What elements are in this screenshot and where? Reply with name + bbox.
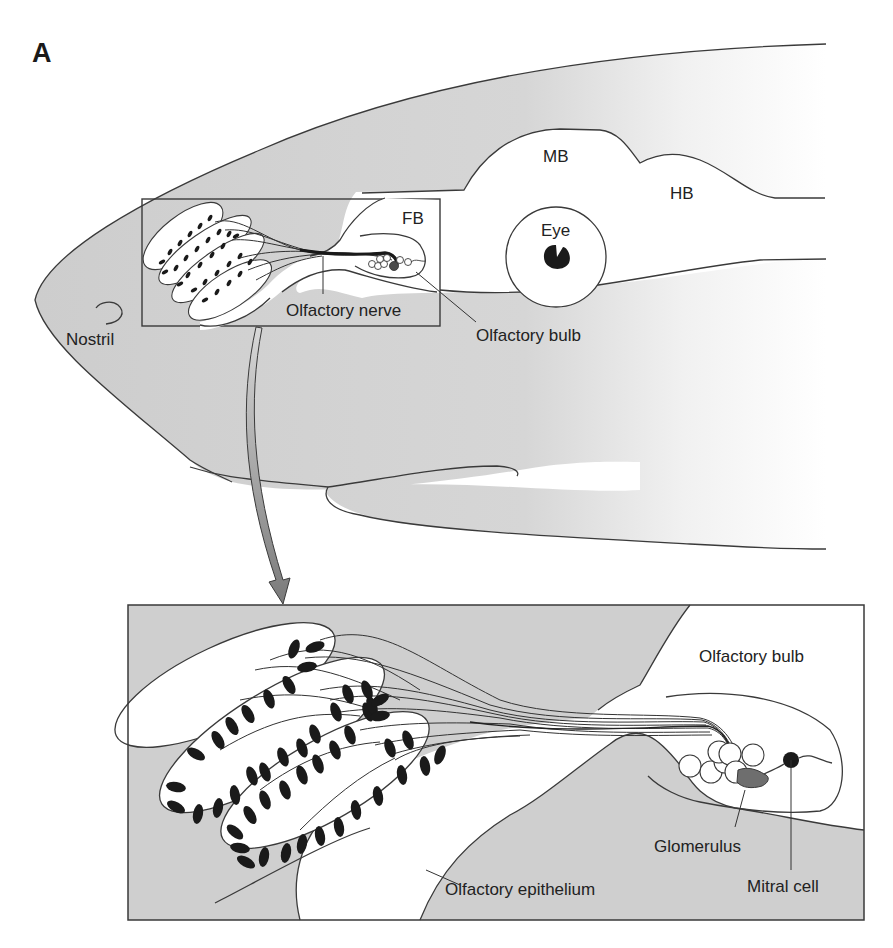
label-mitral-cell: Mitral cell: [747, 877, 819, 896]
olfactory-system-diagram: A: [0, 0, 893, 948]
fish-head: MB HB FB Eye Nostril Olfactory nerve Olf…: [35, 44, 826, 549]
label-eye: Eye: [541, 221, 570, 240]
inset-panel: Olfactory bulb Glomerulus Mitral cell Ol…: [99, 598, 864, 920]
label-olfactory-nerve: Olfactory nerve: [286, 301, 401, 320]
label-mb: MB: [543, 147, 569, 166]
panel-label: A: [32, 38, 52, 68]
label-glomerulus: Glomerulus: [654, 837, 741, 856]
label-olfactory-bulb: Olfactory bulb: [476, 326, 581, 345]
label-fb: FB: [402, 209, 424, 228]
label-hb: HB: [670, 184, 694, 203]
label-nostril: Nostril: [66, 330, 114, 349]
label-olfactory-epithelium: Olfactory epithelium: [445, 880, 595, 899]
label-inset-olfactory-bulb: Olfactory bulb: [699, 647, 804, 666]
